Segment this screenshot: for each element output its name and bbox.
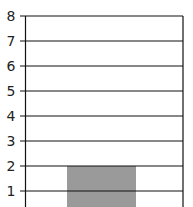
gridlines: [20, 16, 183, 191]
y-tick-label: 2: [7, 158, 16, 174]
y-tick-label: 5: [7, 83, 16, 99]
y-tick-label: 4: [7, 108, 16, 124]
y-tick-labels: 12345678: [7, 8, 16, 199]
bars: [67, 166, 136, 207]
y-tick-label: 1: [7, 183, 16, 199]
bar-chart: 12345678: [0, 0, 193, 207]
y-tick-label: 8: [7, 8, 16, 24]
bar: [67, 166, 136, 207]
y-tick-label: 3: [7, 133, 16, 149]
y-tick-label: 6: [7, 58, 16, 74]
y-tick-label: 7: [7, 33, 16, 49]
